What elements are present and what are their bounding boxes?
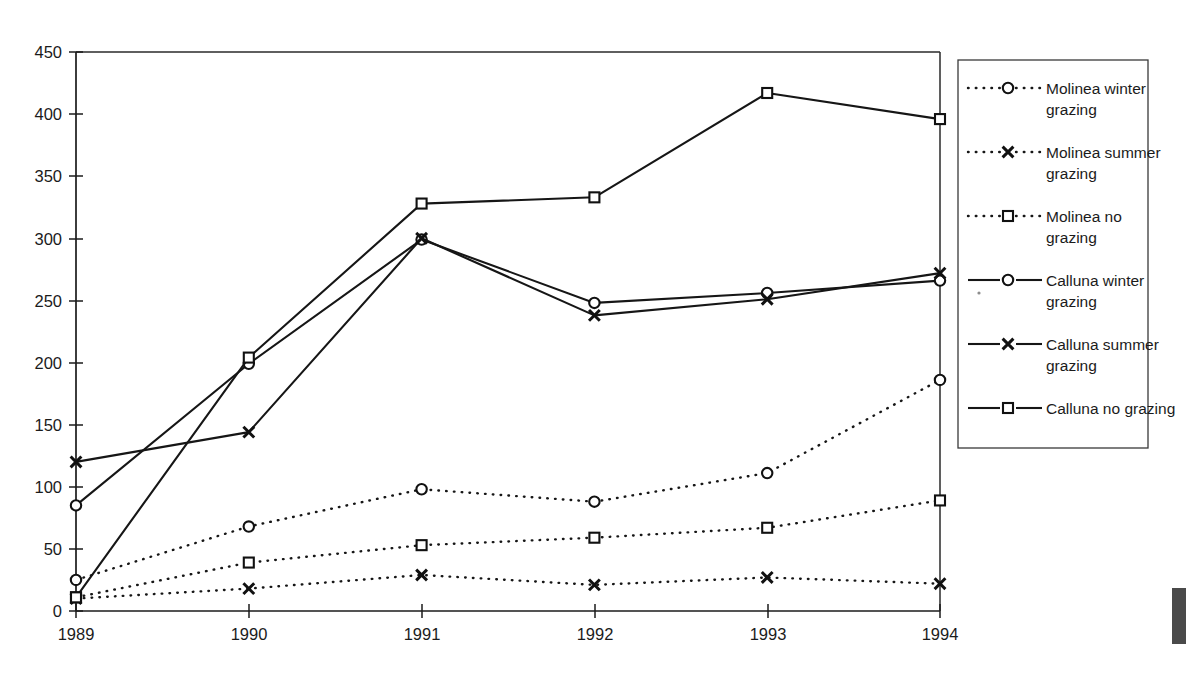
series-molinea-winter-grazing <box>71 375 945 585</box>
data-point <box>589 298 599 308</box>
legend-square-open-icon <box>1003 211 1013 221</box>
legend-label-line2: grazing <box>1046 165 1097 182</box>
data-point <box>244 558 254 568</box>
legend-circle-open-icon <box>1003 275 1013 285</box>
legend-label: Calluna winter <box>1046 272 1144 289</box>
y-tick-label-400: 400 <box>34 105 62 123</box>
legend-label: Calluna summer <box>1046 336 1159 353</box>
x-tick-label-1991: 1991 <box>404 625 441 643</box>
legend-label: Calluna no grazing <box>1046 400 1175 417</box>
legend-label: Molinea summer <box>1046 144 1161 161</box>
chart-figure: 0 50 100 150 200 250 300 350 400 450 198… <box>0 0 1186 684</box>
legend-square-open-icon <box>1003 403 1013 413</box>
legend-label: Molinea no <box>1046 208 1122 225</box>
y-axis-tick-labels: 0 50 100 150 200 250 300 350 400 450 <box>34 43 62 620</box>
series-layer <box>71 88 946 604</box>
data-point <box>935 495 945 505</box>
y-tick-label-100: 100 <box>34 478 62 496</box>
data-point <box>416 484 426 494</box>
data-point <box>244 353 254 363</box>
legend-label-line2: grazing <box>1046 229 1097 246</box>
series-calluna-no-grazing <box>71 88 945 602</box>
data-point <box>71 500 81 510</box>
y-tick-label-50: 50 <box>44 540 62 558</box>
legend-box <box>958 60 1148 448</box>
y-tick-label-250: 250 <box>34 292 62 310</box>
y-tick-label-200: 200 <box>34 354 62 372</box>
data-point <box>244 521 254 531</box>
y-tick-label-450: 450 <box>34 43 62 61</box>
y-tick-label-0: 0 <box>53 602 62 620</box>
scan-speck <box>977 291 980 294</box>
y-tick-label-150: 150 <box>34 416 62 434</box>
legend: Molinea wintergrazingMolinea summergrazi… <box>958 60 1175 448</box>
scan-edge-artifact <box>1172 588 1186 644</box>
x-tick-label-1989: 1989 <box>58 625 95 643</box>
line-chart-svg: 0 50 100 150 200 250 300 350 400 450 198… <box>0 0 1186 684</box>
plot-frame <box>76 52 940 611</box>
legend-label-line2: grazing <box>1046 101 1097 118</box>
legend-label: Molinea winter <box>1046 80 1146 97</box>
series-molinea-summer-grazing <box>71 570 946 604</box>
data-point <box>589 496 599 506</box>
data-point <box>71 592 81 602</box>
data-point <box>243 583 254 594</box>
legend-label-line2: grazing <box>1046 357 1097 374</box>
data-point <box>935 375 945 385</box>
x-tick-label-1992: 1992 <box>577 625 614 643</box>
data-point <box>762 88 772 98</box>
x-tick-label-1993: 1993 <box>750 625 787 643</box>
data-point <box>589 192 599 202</box>
data-point <box>71 575 81 585</box>
data-point <box>935 114 945 124</box>
x-axis-tick-labels: 1989 1990 1991 1992 1993 1994 <box>58 625 959 643</box>
data-point <box>762 468 772 478</box>
data-point <box>589 533 599 543</box>
data-point <box>417 199 427 209</box>
legend-circle-open-icon <box>1003 83 1013 93</box>
y-tick-label-300: 300 <box>34 230 62 248</box>
series-calluna-summer-grazing <box>71 233 946 467</box>
y-tick-label-350: 350 <box>34 167 62 185</box>
data-point <box>762 523 772 533</box>
x-tick-label-1990: 1990 <box>231 625 268 643</box>
data-point <box>762 572 773 583</box>
legend-label-line2: grazing <box>1046 293 1097 310</box>
data-point <box>417 540 427 550</box>
series-molinea-no-grazing <box>71 495 945 602</box>
x-tick-label-1994: 1994 <box>922 625 959 643</box>
